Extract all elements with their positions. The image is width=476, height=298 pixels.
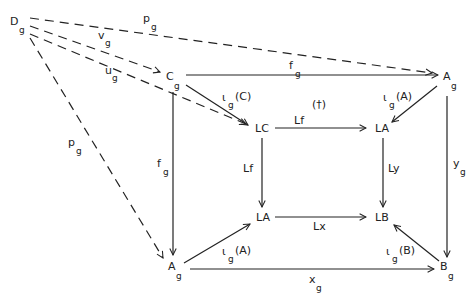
- svg-text:A: A: [443, 70, 451, 83]
- node-Cg: C g: [166, 70, 180, 91]
- node-LB: LB: [375, 211, 389, 224]
- svg-text:g: g: [389, 100, 395, 110]
- label-vg: v g: [98, 29, 111, 48]
- label-iota-B: ι g (B): [386, 244, 415, 264]
- svg-text:(C): (C): [235, 90, 251, 103]
- edge-pg-top: [30, 18, 432, 73]
- svg-text:p: p: [68, 136, 75, 149]
- svg-text:A: A: [168, 260, 176, 273]
- svg-text:g: g: [451, 81, 457, 91]
- label-xg: x g: [309, 273, 322, 293]
- label-pg-top: p g: [143, 12, 157, 32]
- svg-text:LC: LC: [255, 122, 269, 135]
- svg-text:(B): (B): [399, 244, 415, 257]
- svg-text:ι: ι: [383, 91, 387, 104]
- svg-text:g: g: [76, 146, 82, 156]
- svg-text:g: g: [228, 100, 234, 110]
- svg-text:LB: LB: [375, 211, 389, 224]
- svg-text:g: g: [392, 254, 398, 264]
- node-Ag-bottom: A g: [168, 260, 182, 281]
- svg-text:D: D: [10, 15, 18, 28]
- svg-text:(A): (A): [235, 244, 251, 257]
- commutative-diagram: D g C g A g LC LA LA LB A g B g p g v g …: [0, 0, 476, 298]
- label-Lf-top: Lf: [294, 114, 305, 127]
- label-iota-A-top: ι g (A): [383, 90, 412, 110]
- svg-text:Lx: Lx: [313, 220, 326, 233]
- svg-text:u: u: [105, 64, 112, 77]
- svg-text:(A): (A): [396, 90, 412, 103]
- svg-text:B: B: [440, 260, 448, 273]
- node-Ag-top: A g: [443, 70, 457, 91]
- label-iota-C: ι g (C): [222, 90, 251, 110]
- svg-text:g: g: [176, 271, 182, 281]
- label-iota-A-bottom: ι g (A): [222, 244, 251, 264]
- svg-text:y: y: [453, 157, 460, 170]
- svg-text:f: f: [289, 59, 294, 72]
- svg-text:ι: ι: [386, 245, 390, 258]
- svg-text:LA: LA: [256, 211, 270, 224]
- node-LC: LC: [255, 122, 269, 135]
- svg-text:g: g: [151, 22, 157, 32]
- svg-text:g: g: [448, 271, 454, 281]
- label-fg-left: f g: [157, 157, 169, 177]
- label-yg: y g: [453, 157, 466, 177]
- label-Ly: Ly: [388, 162, 400, 175]
- label-fg-top: f g: [289, 59, 301, 79]
- svg-text:x: x: [309, 273, 316, 286]
- svg-text:f: f: [157, 157, 162, 170]
- svg-text:g: g: [460, 167, 466, 177]
- svg-text:g: g: [316, 283, 322, 293]
- svg-text:g: g: [112, 73, 118, 83]
- svg-text:v: v: [98, 29, 105, 42]
- label-Lf-left: Lf: [243, 162, 254, 175]
- svg-text:g: g: [105, 38, 111, 48]
- svg-text:Ly: Ly: [388, 162, 400, 175]
- edge-pg-left: [30, 38, 163, 258]
- svg-text:ι: ι: [222, 245, 226, 258]
- node-LA-top: LA: [375, 122, 389, 135]
- edge-ug: [30, 34, 246, 124]
- svg-text:Lf: Lf: [294, 114, 305, 127]
- svg-text:Lf: Lf: [243, 162, 254, 175]
- node-Bg: B g: [440, 260, 454, 281]
- svg-text:g: g: [174, 81, 180, 91]
- node-Dg: D g: [10, 15, 25, 35]
- svg-text:ι: ι: [222, 91, 226, 104]
- label-Lx: Lx: [313, 220, 326, 233]
- svg-text:g: g: [163, 167, 169, 177]
- svg-text:C: C: [166, 70, 174, 83]
- svg-text:p: p: [143, 12, 150, 25]
- label-ug: u g: [105, 64, 118, 83]
- svg-text:g: g: [228, 254, 234, 264]
- svg-text:(†): (†): [312, 98, 326, 111]
- node-LA-bottom: LA: [256, 211, 270, 224]
- svg-text:g: g: [19, 25, 25, 35]
- svg-text:g: g: [295, 69, 301, 79]
- label-dagger: (†): [312, 98, 326, 111]
- label-pg-left: p g: [68, 136, 82, 156]
- svg-text:LA: LA: [375, 122, 389, 135]
